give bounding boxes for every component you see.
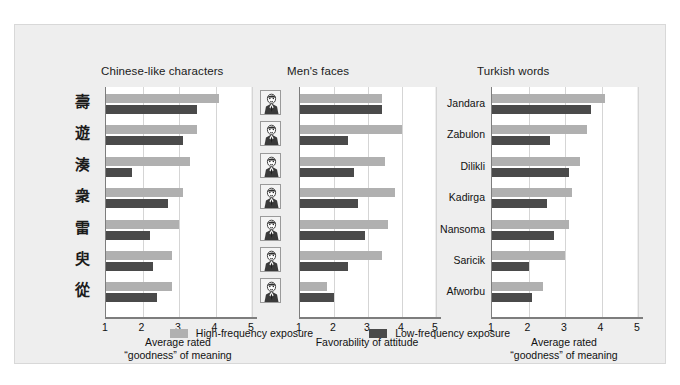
chart-turkish-words: JandaraZabulonDilikliKadirgaNansomaSaric… — [419, 87, 639, 317]
face-thumbnail — [260, 247, 281, 272]
bar-low-frequency — [106, 136, 183, 145]
face-thumbnail — [260, 184, 281, 209]
chinese-character-glyph: 從 — [63, 283, 101, 298]
chinese-character-glyph: 臾 — [63, 252, 101, 267]
bar-high-frequency — [492, 94, 605, 103]
bar-low-frequency — [492, 136, 550, 145]
plot-area-3 — [491, 87, 637, 317]
bar-row — [300, 280, 435, 307]
face-thumbnail — [260, 90, 281, 115]
bar-row — [106, 249, 251, 276]
plot-area-1 — [105, 87, 251, 317]
bar-low-frequency — [300, 262, 348, 271]
turkish-word-label: Kadirga — [419, 191, 485, 203]
bar-high-frequency — [106, 157, 190, 166]
bar-high-frequency — [492, 188, 572, 197]
legend-label-high-frequency: High-frequency exposure — [196, 327, 313, 339]
bar-low-frequency — [492, 105, 591, 114]
bar-row — [106, 155, 251, 182]
bar-low-frequency — [300, 199, 358, 208]
legend-swatch-high-frequency — [170, 329, 188, 338]
bar-high-frequency — [492, 125, 587, 134]
bar-row — [300, 92, 435, 119]
bar-rows-3 — [492, 87, 637, 317]
turkish-word-label: Jandara — [419, 97, 485, 109]
bar-row — [492, 123, 637, 150]
chart-mens-faces — [239, 87, 439, 317]
bar-low-frequency — [492, 231, 554, 240]
bar-high-frequency — [492, 157, 580, 166]
x-axis-title-3: Average rated“goodness” of meaning — [451, 336, 677, 361]
chinese-character-glyph: 壽 — [63, 95, 101, 110]
face-thumbnail — [260, 121, 281, 146]
chinese-character-glyph: 湊 — [63, 158, 101, 173]
bar-low-frequency — [106, 262, 153, 271]
bar-row — [300, 218, 435, 245]
turkish-word-label: Saricik — [419, 254, 485, 266]
x-axis-title-1: Average rated“goodness” of meaning — [65, 336, 291, 361]
bar-low-frequency — [492, 168, 569, 177]
bar-low-frequency — [106, 199, 168, 208]
bar-row — [106, 92, 251, 119]
face-thumbnail — [260, 216, 281, 241]
bar-row — [106, 123, 251, 150]
bar-high-frequency — [300, 251, 382, 260]
axis-line-2 — [299, 317, 441, 319]
plot-area-2 — [299, 87, 435, 317]
bar-rows-1 — [106, 87, 251, 317]
bar-row — [300, 249, 435, 276]
bar-high-frequency — [106, 125, 197, 134]
bar-high-frequency — [300, 188, 395, 197]
bar-low-frequency — [106, 293, 157, 302]
chart-title-mens-faces: Men's faces — [287, 65, 349, 77]
axis-line-1 — [105, 317, 257, 319]
chart-legend: High-frequency exposure Low-frequency ex… — [15, 327, 665, 339]
turkish-word-label: Zabulon — [419, 128, 485, 140]
chart-title-turkish-words: Turkish words — [477, 65, 549, 77]
bar-row — [106, 280, 251, 307]
legend-label-low-frequency: Low-frequency exposure — [395, 327, 510, 339]
legend-item-high-frequency: High-frequency exposure — [170, 327, 313, 339]
bar-row — [300, 123, 435, 150]
bar-row — [492, 218, 637, 245]
legend-item-low-frequency: Low-frequency exposure — [369, 327, 510, 339]
bar-low-frequency — [492, 199, 547, 208]
bar-row — [492, 280, 637, 307]
chinese-character-glyph: 衆 — [63, 189, 101, 204]
bar-row — [492, 186, 637, 213]
axis-line-3 — [491, 317, 643, 319]
bar-low-frequency — [300, 168, 354, 177]
chinese-character-glyph: 雷 — [63, 221, 101, 236]
bar-row — [492, 249, 637, 276]
turkish-word-label: Nansoma — [419, 223, 485, 235]
bar-high-frequency — [300, 282, 327, 291]
bar-row — [300, 155, 435, 182]
bar-low-frequency — [106, 168, 132, 177]
bar-row — [300, 186, 435, 213]
bar-high-frequency — [106, 220, 179, 229]
bar-low-frequency — [300, 231, 365, 240]
bar-low-frequency — [300, 293, 334, 302]
chart-title-chinese-characters: Chinese-like characters — [101, 65, 223, 77]
bar-high-frequency — [300, 125, 402, 134]
turkish-word-label: Dilikli — [419, 160, 485, 172]
bar-high-frequency — [106, 94, 219, 103]
face-thumbnail — [260, 278, 281, 303]
chinese-character-glyph: 遊 — [63, 126, 101, 141]
face-thumbnail — [260, 153, 281, 178]
bar-high-frequency — [300, 220, 388, 229]
bar-high-frequency — [492, 251, 565, 260]
bar-low-frequency — [106, 105, 197, 114]
bar-high-frequency — [492, 220, 569, 229]
bar-high-frequency — [300, 94, 382, 103]
legend-swatch-low-frequency — [369, 329, 387, 338]
bar-high-frequency — [106, 251, 172, 260]
turkish-word-label: Afworbu — [419, 285, 485, 297]
bar-high-frequency — [300, 157, 385, 166]
bar-low-frequency — [492, 262, 529, 271]
bar-row — [106, 186, 251, 213]
bar-row — [492, 155, 637, 182]
bar-row — [106, 218, 251, 245]
gridline-3-5 — [638, 87, 639, 317]
bar-low-frequency — [106, 231, 150, 240]
